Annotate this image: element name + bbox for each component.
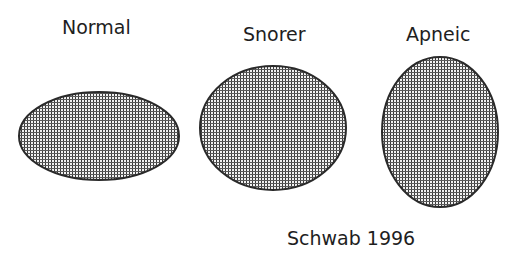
diagram-canvas: Normal Snorer Apneic Schwab 1996 (0, 0, 516, 254)
normal-label: Normal (62, 18, 131, 37)
snorer-airway-ellipse (200, 66, 346, 190)
apneic-label: Apneic (406, 25, 471, 44)
snorer-label: Snorer (243, 25, 306, 44)
normal-airway-ellipse (19, 92, 179, 180)
citation-caption: Schwab 1996 (287, 229, 415, 248)
apneic-airway-ellipse (382, 57, 498, 207)
